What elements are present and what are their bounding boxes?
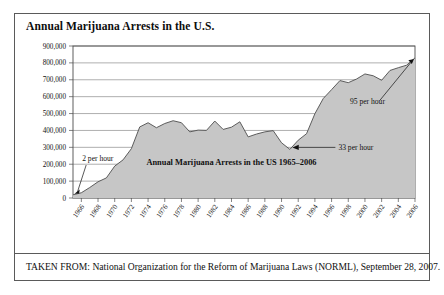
ytick-label: 600,000 [43, 93, 67, 101]
xtick-label: 2002 [372, 203, 387, 220]
xtick-label: 2000 [355, 203, 370, 220]
xtick-label: 1984 [222, 203, 237, 220]
ytick-label: 0 [62, 195, 66, 203]
annot-2-per-hour-arrowhead [75, 189, 80, 193]
xtick-label: 1980 [188, 203, 203, 220]
xtick-label: 1994 [305, 203, 320, 220]
xtick-label: 1982 [205, 203, 220, 220]
area-fill [73, 58, 415, 198]
page-title: Annual Marijuana Arrests in the U.S. [26, 20, 214, 32]
ytick-label: 300,000 [43, 144, 67, 152]
ytick-label: 200,000 [43, 161, 67, 169]
annot-33-per-hour-label: 33 per hour [338, 143, 373, 152]
xtick-label: 1978 [171, 203, 186, 220]
xtick-label: 1986 [238, 203, 253, 220]
area-chart: 0100,000200,000300,000400,000500,000600,… [15, 40, 429, 244]
ytick-label: 800,000 [43, 59, 67, 67]
annot-2-per-hour-label: 2 per hour [82, 154, 114, 163]
xtick-label: 1972 [121, 203, 136, 220]
annot-2-per-hour-leader [78, 165, 87, 192]
xtick-label: 1992 [288, 203, 303, 220]
annot-95-per-hour-label: 95 per hour [350, 97, 385, 106]
ytick-label: 400,000 [43, 127, 67, 135]
figure-panel: Annual Marijuana Arrests in the U.S. 010… [14, 13, 430, 281]
ytick-label: 100,000 [43, 178, 67, 186]
chart-area: 0100,000200,000300,000400,000500,000600,… [15, 40, 429, 244]
xtick-label: 1974 [138, 203, 153, 220]
source-note: TAKEN FROM: National Organization for th… [26, 260, 421, 273]
xtick-label: 2004 [388, 203, 403, 220]
xtick-label: 1998 [338, 203, 353, 220]
xtick-label: 1968 [88, 203, 103, 220]
xtick-label: 1988 [255, 203, 270, 220]
xtick-label: 1966 [71, 203, 86, 220]
xtick-label: 1976 [155, 203, 170, 220]
divider [15, 253, 429, 254]
xtick-label: 1996 [322, 203, 337, 220]
xtick-label: 1970 [105, 203, 120, 220]
xtick-label: 2006 [405, 203, 420, 220]
ytick-label: 700,000 [43, 76, 67, 84]
ytick-label: 500,000 [43, 110, 67, 118]
ytick-label: 900,000 [43, 43, 67, 51]
inner-caption: Annual Marijuana Arrests in the US 1965–… [146, 158, 316, 167]
xtick-label: 1990 [272, 203, 287, 220]
